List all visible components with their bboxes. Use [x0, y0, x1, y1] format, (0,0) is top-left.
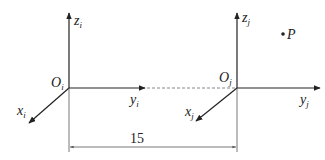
point-label: P	[286, 27, 296, 42]
y-j-label: yj	[298, 92, 309, 109]
frame-i: zi Oi yi xi	[16, 13, 145, 123]
x-i-axis	[29, 88, 69, 123]
coordinate-frames-diagram: zi Oi yi xi zj Oj yj xj P 15	[0, 0, 325, 160]
z-i-label: zi	[73, 13, 82, 30]
origin-i-label: Oi	[51, 75, 64, 92]
dimension-15: 15	[69, 88, 237, 152]
dimension-value: 15	[130, 131, 144, 146]
point-p: P	[281, 27, 296, 42]
x-j-axis	[196, 88, 237, 121]
frame-j: zj Oj yj xj	[184, 10, 320, 121]
point-dot	[281, 32, 285, 36]
origin-j-label: Oj	[219, 70, 232, 87]
x-i-label: xi	[16, 103, 26, 120]
y-i-label: yi	[128, 92, 139, 109]
x-j-label: xj	[184, 104, 194, 121]
z-j-label: zj	[241, 10, 250, 27]
